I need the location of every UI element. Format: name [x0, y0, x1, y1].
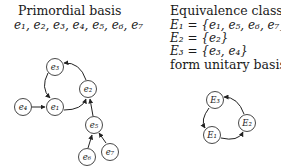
svg-text:e₃: e₃ [51, 62, 60, 72]
edge-e5-e2 [90, 99, 93, 116]
svg-text:E₃: E₃ [209, 95, 220, 105]
node-e5: e₅ [86, 117, 103, 134]
svg-text:e₅: e₅ [90, 120, 99, 130]
edge-e6-e5 [88, 135, 92, 148]
edge-E2-E3 [224, 97, 244, 114]
edge-E3-E1 [203, 108, 209, 128]
edge-e1-e2 [64, 99, 86, 110]
node-e7: e₇ [102, 144, 119, 161]
svg-text:E₂: E₂ [241, 118, 252, 128]
node-e2: e₂ [80, 81, 97, 98]
svg-text:e₆: e₆ [83, 152, 92, 162]
graphs-canvas: e₃ e₁ e₄ e₂ e₅ e₆ e₇ E₃ E₁ E₂ [0, 0, 281, 168]
node-E3: E₃ [207, 92, 224, 109]
svg-text:e₄: e₄ [19, 102, 28, 112]
edge-e7-e5 [99, 133, 106, 143]
svg-text:e₂: e₂ [84, 84, 93, 94]
node-e4: e₄ [15, 99, 32, 116]
node-e1: e₁ [47, 99, 64, 116]
node-E2: E₂ [239, 115, 256, 132]
node-E1: E₁ [204, 127, 221, 144]
svg-text:E₁: E₁ [206, 130, 217, 140]
edge-e2-e3 [64, 63, 86, 80]
edge-e3-e1 [44, 73, 50, 98]
svg-text:e₁: e₁ [51, 102, 59, 112]
edge-E1-E2 [221, 132, 243, 139]
primordial-graph-edges [32, 63, 106, 148]
svg-text:e₇: e₇ [106, 147, 115, 157]
node-e6: e₆ [79, 149, 96, 166]
node-e3: e₃ [47, 59, 64, 76]
